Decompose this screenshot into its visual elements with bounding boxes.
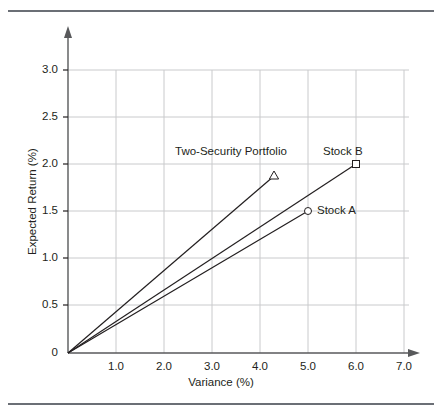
x-axis <box>68 349 420 357</box>
series-line-stock-a <box>68 211 308 353</box>
y-axis-title: Expected Return (%) <box>26 148 38 255</box>
series-label-stock-b: Stock B <box>323 145 363 157</box>
y-tick-label-0: 0 <box>24 346 58 358</box>
plot-area <box>0 0 442 419</box>
y-axis <box>64 26 72 353</box>
y-tick-label-0-5: 0.5 <box>24 298 58 310</box>
series-label-portfolio: Two-Security Portfolio <box>175 145 287 157</box>
x-axis-title: Variance (%) <box>0 376 442 388</box>
x-tick-label-4-0: 4.0 <box>243 360 277 372</box>
x-tick-label-3-0: 3.0 <box>195 360 229 372</box>
marker-portfolio-triangle <box>269 171 278 179</box>
x-tick-label-1-0: 1.0 <box>99 360 133 372</box>
y-tick-label-2-5: 2.5 <box>24 110 58 122</box>
series-line-portfolio <box>68 176 274 353</box>
marker-stock-b-square <box>353 161 360 168</box>
marker-stock-a-circle <box>305 208 312 215</box>
x-tick-label-5-0: 5.0 <box>291 360 325 372</box>
x-tick-label-2-0: 2.0 <box>147 360 181 372</box>
chart-figure: 3.0 2.5 2.0 1.5 1.0 0.5 0 1.0 2.0 3.0 4.… <box>0 0 442 419</box>
y-tick-label-3-0: 3.0 <box>24 63 58 75</box>
series-label-stock-a: Stock A <box>317 204 356 216</box>
y-tick-marks <box>63 70 68 305</box>
horizontal-gridlines <box>68 70 409 305</box>
x-tick-label-7-0: 7.0 <box>387 360 421 372</box>
x-tick-label-6-0: 6.0 <box>339 360 373 372</box>
